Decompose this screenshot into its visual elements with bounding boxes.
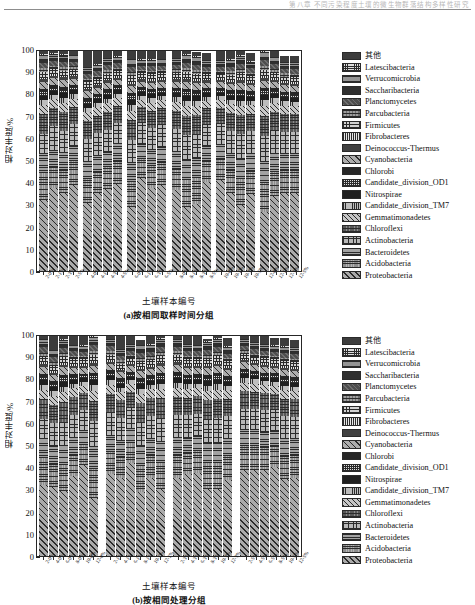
legend-item[interactable]: Bacteroidetes <box>342 246 473 258</box>
stacked-bar[interactable] <box>290 336 299 556</box>
stacked-bar[interactable] <box>147 51 156 271</box>
stacked-bar[interactable] <box>183 336 192 556</box>
legend-item[interactable]: Saccharibacteria <box>342 85 473 97</box>
legend-item[interactable]: Gemmatimonadetes <box>342 497 473 509</box>
stacked-bar[interactable] <box>116 336 125 556</box>
bar-segment <box>183 398 192 416</box>
stacked-bar[interactable] <box>126 336 135 556</box>
legend-item[interactable]: Chloroflexi <box>342 223 473 235</box>
legend-item[interactable]: Gemmatimonadetes <box>342 212 473 224</box>
legend-item[interactable]: Nitrospirae <box>342 474 473 486</box>
stacked-bar[interactable] <box>39 51 48 271</box>
legend-item[interactable]: Verrucomicrobia <box>342 358 473 370</box>
legend-item[interactable]: Verrucomicrobia <box>342 73 473 85</box>
bar-segment <box>83 139 92 161</box>
stacked-bar[interactable] <box>59 51 68 271</box>
legend-item[interactable]: Nitrospirae <box>342 189 473 201</box>
stacked-bar[interactable] <box>89 336 98 556</box>
legend-item[interactable]: Chloroflexi <box>342 508 473 520</box>
bar-segment <box>83 112 92 121</box>
stacked-bar[interactable] <box>39 336 48 556</box>
legend-item[interactable]: Firmicutes <box>342 119 473 131</box>
stacked-bar[interactable] <box>136 336 145 556</box>
stacked-bar[interactable] <box>202 51 211 271</box>
bar-segment <box>83 203 92 271</box>
y-axis-ticks-b: 0102030405060708090100 <box>14 335 36 557</box>
stacked-bar[interactable] <box>270 336 279 556</box>
stacked-bar[interactable] <box>260 51 269 271</box>
legend-item[interactable]: Acidobacteria <box>342 258 473 270</box>
legend-item[interactable]: Acidobacteria <box>342 543 473 555</box>
legend-item[interactable]: Planctomycetes <box>342 96 473 108</box>
stacked-bar[interactable] <box>49 336 58 556</box>
legend-item[interactable]: 其他 <box>342 335 473 347</box>
y-axis-tick-label: 70 <box>26 398 35 406</box>
stacked-bar[interactable] <box>226 51 235 271</box>
legend-item[interactable]: Fibrobacteres <box>342 416 473 428</box>
stacked-bar[interactable] <box>236 51 245 271</box>
bar-segment <box>69 438 78 455</box>
stacked-bar[interactable] <box>280 336 289 556</box>
stacked-bar[interactable] <box>270 51 279 271</box>
stacked-bar[interactable] <box>157 51 166 271</box>
stacked-bar[interactable] <box>280 51 289 271</box>
stacked-bar[interactable] <box>203 336 212 556</box>
legend-item[interactable]: Proteobacteria <box>342 554 473 566</box>
stacked-bar[interactable] <box>246 51 255 271</box>
bar-segment <box>172 111 181 129</box>
stacked-bar[interactable] <box>137 51 146 271</box>
legend-item[interactable]: Saccharibacteria <box>342 370 473 382</box>
stacked-bar[interactable] <box>250 336 259 556</box>
stacked-bar[interactable] <box>69 336 78 556</box>
stacked-bar[interactable] <box>49 51 58 271</box>
legend-item[interactable]: Bacteroidetes <box>342 531 473 543</box>
legend-item[interactable]: Candidate_division_TM7 <box>342 200 473 212</box>
legend-label: Bacteroidetes <box>365 533 410 542</box>
stacked-bar[interactable] <box>59 336 68 556</box>
stacked-bar[interactable] <box>172 51 181 271</box>
legend-item[interactable]: Parcubacteria <box>342 108 473 120</box>
legend-item[interactable]: Chlorobi <box>342 450 473 462</box>
legend-item[interactable]: Proteobacteria <box>342 269 473 281</box>
legend-item[interactable]: Candidate_division_OD1 <box>342 462 473 474</box>
stacked-bar[interactable] <box>260 336 269 556</box>
legend-item[interactable]: Cyanobacteria <box>342 154 473 166</box>
stacked-bar[interactable] <box>182 51 191 271</box>
stacked-bar[interactable] <box>213 336 222 556</box>
legend-item[interactable]: Candidate_division_OD1 <box>342 177 473 189</box>
stacked-bar[interactable] <box>290 51 299 271</box>
legend-item[interactable]: Latescibacteria <box>342 347 473 359</box>
legend-item[interactable]: Parcubacteria <box>342 393 473 405</box>
stacked-bar[interactable] <box>173 336 182 556</box>
stacked-bar[interactable] <box>146 336 155 556</box>
stacked-bar[interactable] <box>127 51 136 271</box>
stacked-bar[interactable] <box>156 336 165 556</box>
legend-item[interactable]: Fibrobacteres <box>342 131 473 143</box>
stacked-bar[interactable] <box>113 51 122 271</box>
stacked-bar[interactable] <box>223 336 232 556</box>
stacked-bar[interactable] <box>69 51 78 271</box>
stacked-bar[interactable] <box>103 51 112 271</box>
legend-item[interactable]: Planctomycetes <box>342 381 473 393</box>
legend-item[interactable]: 其他 <box>342 50 473 62</box>
legend-item[interactable]: Actinobacteria <box>342 520 473 532</box>
legend-item[interactable]: Actinobacteria <box>342 235 473 247</box>
stacked-bar[interactable] <box>83 51 92 271</box>
bar-segment <box>182 106 191 116</box>
bar-segment <box>260 162 269 184</box>
legend-item[interactable]: Firmicutes <box>342 404 473 416</box>
legend-item[interactable]: Deinococcus-Thermus <box>342 142 473 154</box>
stacked-bar[interactable] <box>192 51 201 271</box>
legend-item[interactable]: Candidate_division_TM7 <box>342 485 473 497</box>
stacked-bar[interactable] <box>79 336 88 556</box>
legend-item[interactable]: Latescibacteria <box>342 62 473 74</box>
bar-segment <box>240 470 249 556</box>
stacked-bar[interactable] <box>216 51 225 271</box>
stacked-bar[interactable] <box>93 51 102 271</box>
stacked-bar[interactable] <box>193 336 202 556</box>
legend-item[interactable]: Chlorobi <box>342 165 473 177</box>
legend-item[interactable]: Deinococcus-Thermus <box>342 427 473 439</box>
legend-item[interactable]: Cyanobacteria <box>342 439 473 451</box>
stacked-bar[interactable] <box>240 336 249 556</box>
stacked-bar[interactable] <box>106 336 115 556</box>
